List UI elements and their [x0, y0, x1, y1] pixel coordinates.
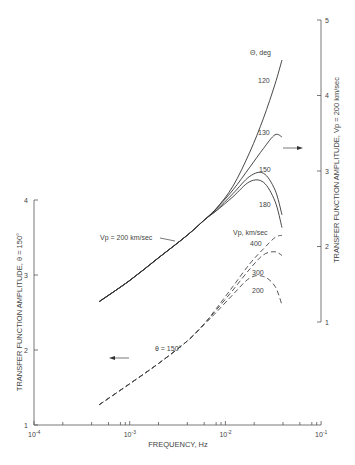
vp-header: Vp, km/sec [233, 229, 268, 237]
right-tick-label: 5 [325, 17, 329, 24]
x-tick-label: 10-4 [28, 429, 40, 438]
left-tick-label: 2 [24, 347, 28, 354]
x-tick-label: 10-3 [124, 429, 136, 438]
right-tick-label: 2 [325, 243, 329, 250]
right-tick-label: 3 [325, 168, 329, 175]
label-300: 300 [252, 269, 264, 276]
x-tick-label: 10-2 [219, 429, 231, 438]
arrow-right-icon [283, 146, 303, 150]
solid-note: Vp = 200 km/sec [100, 234, 153, 242]
chart: 10-410-310-210-1 1234 12345 FREQUENCY, H… [0, 0, 355, 465]
left-tick-label: 1 [24, 422, 28, 429]
label-120: 120 [258, 77, 270, 84]
label-150: 150 [259, 166, 271, 173]
left-y-axis-label: TRANSFER FUNCTION AMPLITUDE, θ = 150° [15, 233, 24, 391]
label-180: 180 [259, 201, 271, 208]
x-axis-label: FREQUENCY, Hz [148, 440, 208, 449]
solid-note-leader [160, 238, 175, 241]
arrow-left-icon [109, 356, 129, 360]
right-y-ticks: 12345 [317, 17, 329, 326]
x-tick-label: 10-1 [315, 429, 327, 438]
left-tick-label: 3 [24, 272, 28, 279]
theta-header: Θ, deg [250, 49, 271, 57]
left-y-ticks: 1234 [24, 197, 38, 429]
right-y-axis-label: TRANSFER FUNCTION AMPLITUDE, Vp = 200 km… [332, 77, 341, 263]
curve-120 [99, 60, 282, 302]
curve-400 [99, 235, 282, 404]
dashed-note: θ = 150° [155, 345, 182, 352]
label-400: 400 [250, 240, 262, 247]
curve-130 [99, 134, 282, 301]
label-130: 130 [258, 129, 270, 136]
right-tick-label: 1 [325, 319, 329, 326]
right-tick-label: 4 [325, 92, 329, 99]
x-ticks: 10-410-310-210-1 [28, 421, 328, 438]
curve-200 [99, 276, 282, 405]
left-tick-label: 4 [24, 197, 28, 204]
label-200: 200 [252, 287, 264, 294]
